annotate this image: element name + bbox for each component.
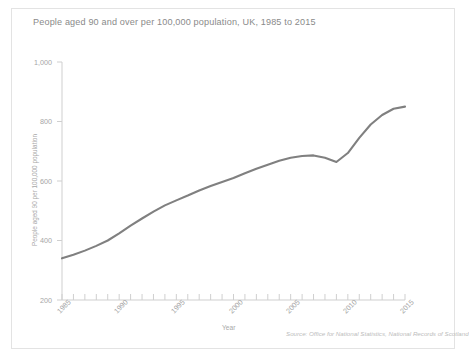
chart-axes [62, 62, 405, 300]
y-tick-label: 200 [22, 296, 52, 305]
y-axis-title: People aged 90 per 100,000 population [31, 134, 38, 246]
chart-tick-marks [57, 62, 405, 300]
y-tick-label: 800 [22, 117, 52, 126]
source-note: Source: Office for National Statistics, … [286, 330, 469, 337]
y-tick-label: 1,000 [22, 58, 52, 67]
data-series-line [62, 107, 405, 259]
x-axis-title: Year [222, 324, 235, 331]
